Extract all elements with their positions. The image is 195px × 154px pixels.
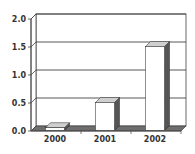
y-tick-label: 1.0 xyxy=(12,71,27,80)
y-tick-label: 0.0 xyxy=(12,127,27,136)
y-axis: 0.00.51.01.52.0 xyxy=(12,15,31,136)
bar-2000 xyxy=(46,123,70,131)
y-tick-label: 2.0 xyxy=(12,15,27,24)
x-axis: 200020012002 xyxy=(31,131,181,144)
bar-2002 xyxy=(146,42,170,131)
x-tick-label: 2001 xyxy=(94,135,117,144)
bar-2001 xyxy=(96,98,120,131)
bar-chart: 0.00.51.01.52.0 200020012002 xyxy=(0,0,195,154)
x-tick-label: 2002 xyxy=(144,135,166,144)
y-tick-label: 0.5 xyxy=(12,99,27,108)
y-tick-label: 1.5 xyxy=(12,43,27,52)
x-tick-label: 2000 xyxy=(44,135,67,144)
